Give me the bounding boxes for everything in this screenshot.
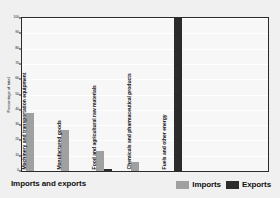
y-axis-title: Percentage of total: [7, 60, 12, 130]
category-label: Manufactured goods: [57, 120, 62, 169]
legend-label-imports: Imports: [192, 180, 221, 189]
bar-exports: [104, 169, 112, 171]
chart-figure: Percentage of total 01020304050607080901…: [0, 0, 280, 198]
legend-label-exports: Exports: [242, 180, 271, 189]
plot-area: Machinery and transportation equipmentMa…: [21, 17, 269, 172]
category-label: Food and agricultural raw materials: [92, 85, 97, 169]
bar-imports: [96, 151, 104, 171]
legend-swatch-imports: [176, 181, 189, 189]
chart-title: Imports and exports: [11, 179, 86, 188]
legend-swatch-exports: [226, 181, 239, 189]
bar-exports: [174, 18, 182, 171]
bar-imports: [131, 162, 139, 171]
bar-imports: [26, 113, 34, 171]
legend-item-imports: Imports: [176, 180, 221, 189]
legend-item-exports: Exports: [226, 180, 271, 189]
y-axis: Percentage of total 01020304050607080901…: [0, 17, 21, 172]
category-label: Machinery and transportation equipment: [22, 72, 27, 169]
bar-series-container: Machinery and transportation equipmentMa…: [22, 18, 268, 171]
category-label: Chemicals and pharmaceutical products: [127, 73, 132, 169]
chart-footer: Imports and exports Imports Exports: [0, 172, 280, 198]
bar-imports: [61, 130, 69, 171]
category-label: Fuels and other energy: [162, 114, 167, 169]
legend: Imports Exports: [176, 180, 271, 189]
